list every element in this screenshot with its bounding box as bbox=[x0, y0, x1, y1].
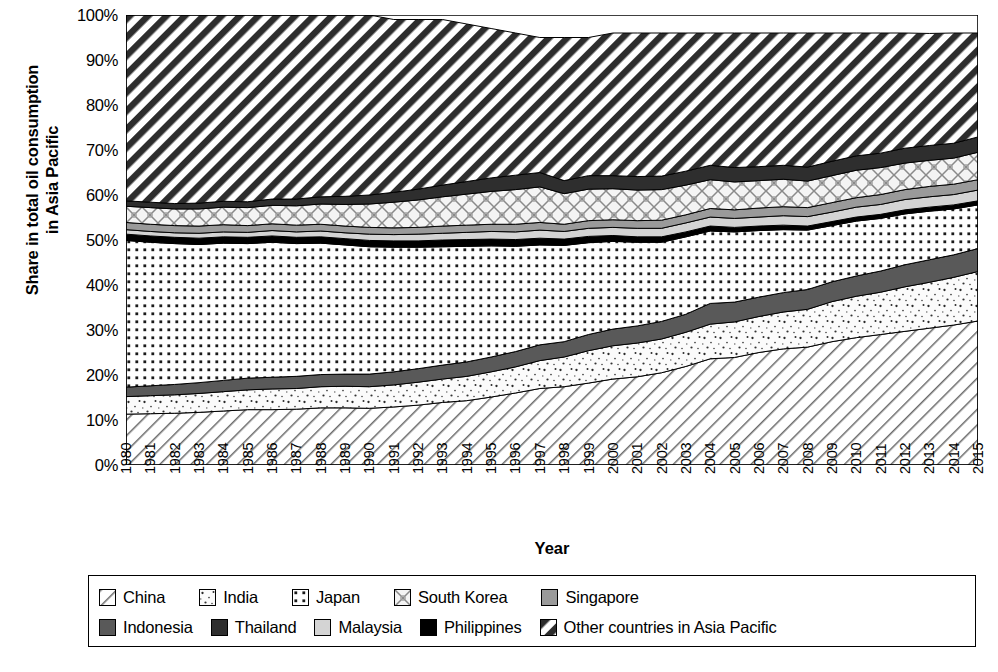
legend-swatch-icon bbox=[394, 589, 411, 606]
chart-root: Share in total oil consumption in Asia P… bbox=[0, 0, 998, 672]
x-axis-tick-labels: 1980198119821983198419851986198719881989… bbox=[126, 474, 978, 536]
y-axis-tick-labels: 0%10%20%30%40%50%60%70%80%90%100% bbox=[54, 0, 118, 480]
x-tick-2002: 2002 bbox=[654, 443, 670, 474]
legend-item-philippines[interactable]: Philippines bbox=[420, 618, 522, 637]
legend-swatch-icon bbox=[199, 589, 216, 606]
legend-swatch-icon bbox=[211, 619, 228, 636]
x-tick-1985: 1985 bbox=[240, 443, 256, 474]
legend-item-other-countries-in-asia-pacific[interactable]: Other countries in Asia Pacific bbox=[540, 618, 777, 637]
legend-item-india[interactable]: India bbox=[199, 588, 258, 607]
legend-label: Japan bbox=[316, 588, 360, 607]
legend-label: Other countries in Asia Pacific bbox=[564, 618, 777, 637]
legend-label: China bbox=[123, 588, 165, 607]
x-tick-1984: 1984 bbox=[215, 443, 231, 474]
x-tick-2000: 2000 bbox=[605, 443, 621, 474]
x-tick-1982: 1982 bbox=[167, 443, 183, 474]
legend-swatch-icon bbox=[292, 589, 309, 606]
y-tick-60pct: 60% bbox=[86, 186, 118, 205]
legend-label: Philippines bbox=[444, 618, 522, 637]
x-tick-2010: 2010 bbox=[848, 443, 864, 474]
x-tick-1986: 1986 bbox=[264, 443, 280, 474]
x-tick-2012: 2012 bbox=[897, 443, 913, 474]
x-tick-2003: 2003 bbox=[678, 443, 694, 474]
legend-label: South Korea bbox=[418, 588, 508, 607]
legend-swatch-icon bbox=[99, 589, 116, 606]
y-tick-40pct: 40% bbox=[86, 276, 118, 295]
x-tick-1989: 1989 bbox=[337, 443, 353, 474]
x-tick-2013: 2013 bbox=[921, 443, 937, 474]
x-tick-1997: 1997 bbox=[532, 443, 548, 474]
y-tick-50pct: 50% bbox=[86, 231, 118, 250]
legend-swatch-icon bbox=[314, 619, 331, 636]
legend-label: Thailand bbox=[235, 618, 297, 637]
chart-legend: ChinaIndiaJapanSouth KoreaSingapore Indo… bbox=[88, 575, 976, 647]
x-tick-2001: 2001 bbox=[629, 443, 645, 474]
x-tick-1990: 1990 bbox=[361, 443, 377, 474]
x-tick-1991: 1991 bbox=[386, 443, 402, 474]
legend-item-south-korea[interactable]: South Korea bbox=[394, 588, 508, 607]
x-tick-1981: 1981 bbox=[142, 443, 158, 474]
x-tick-1980: 1980 bbox=[118, 443, 134, 474]
legend-item-indonesia[interactable]: Indonesia bbox=[99, 618, 193, 637]
x-tick-2007: 2007 bbox=[775, 443, 791, 474]
legend-item-japan[interactable]: Japan bbox=[292, 588, 360, 607]
y-tick-80pct: 80% bbox=[86, 96, 118, 115]
y-tick-0pct: 0% bbox=[95, 456, 118, 475]
x-tick-1988: 1988 bbox=[313, 443, 329, 474]
x-tick-1992: 1992 bbox=[410, 443, 426, 474]
x-tick-1987: 1987 bbox=[288, 443, 304, 474]
y-axis-title-line1: Share in total oil consumption bbox=[23, 65, 41, 296]
x-tick-1993: 1993 bbox=[434, 443, 450, 474]
y-tick-90pct: 90% bbox=[86, 51, 118, 70]
legend-label: Indonesia bbox=[123, 618, 193, 637]
x-tick-1998: 1998 bbox=[556, 443, 572, 474]
legend-label: Malaysia bbox=[338, 618, 402, 637]
x-tick-2014: 2014 bbox=[946, 443, 962, 474]
x-tick-1999: 1999 bbox=[581, 443, 597, 474]
x-tick-2004: 2004 bbox=[702, 443, 718, 474]
legend-row: ChinaIndiaJapanSouth KoreaSingapore bbox=[99, 582, 967, 612]
x-tick-2008: 2008 bbox=[800, 443, 816, 474]
y-tick-10pct: 10% bbox=[86, 411, 118, 430]
y-tick-70pct: 70% bbox=[86, 141, 118, 160]
legend-label: India bbox=[223, 588, 258, 607]
x-tick-1994: 1994 bbox=[459, 443, 475, 474]
legend-row: IndonesiaThailandMalaysiaPhilippinesOthe… bbox=[99, 612, 967, 642]
y-tick-30pct: 30% bbox=[86, 321, 118, 340]
legend-item-malaysia[interactable]: Malaysia bbox=[314, 618, 402, 637]
legend-label: Singapore bbox=[565, 588, 638, 607]
y-tick-20pct: 20% bbox=[86, 366, 118, 385]
x-tick-1996: 1996 bbox=[507, 443, 523, 474]
legend-swatch-icon bbox=[99, 619, 116, 636]
legend-item-thailand[interactable]: Thailand bbox=[211, 618, 297, 637]
legend-swatch-icon bbox=[540, 619, 557, 636]
x-tick-2006: 2006 bbox=[751, 443, 767, 474]
x-tick-1995: 1995 bbox=[483, 443, 499, 474]
y-tick-100pct: 100% bbox=[77, 6, 118, 25]
x-tick-1983: 1983 bbox=[191, 443, 207, 474]
plot-area bbox=[126, 15, 978, 465]
x-tick-2009: 2009 bbox=[824, 443, 840, 474]
legend-item-china[interactable]: China bbox=[99, 588, 165, 607]
x-tick-2015: 2015 bbox=[970, 443, 986, 474]
legend-swatch-icon bbox=[420, 619, 437, 636]
x-tick-2005: 2005 bbox=[727, 443, 743, 474]
stacked-area-chart bbox=[126, 15, 978, 465]
x-tick-2011: 2011 bbox=[873, 444, 889, 474]
legend-swatch-icon bbox=[541, 589, 558, 606]
legend-item-singapore[interactable]: Singapore bbox=[541, 588, 638, 607]
x-axis-title: Year bbox=[126, 539, 978, 558]
